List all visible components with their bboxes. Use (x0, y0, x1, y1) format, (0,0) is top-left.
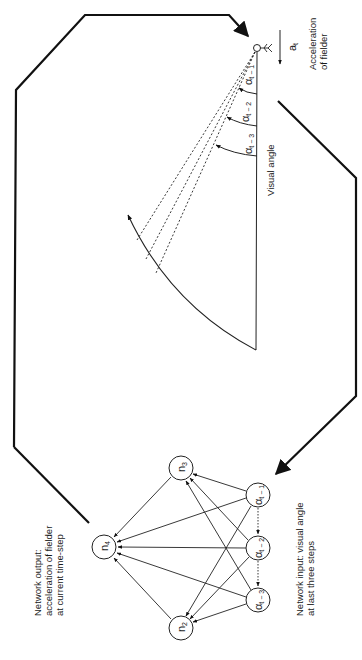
network-output-label-line3: at current time-step (54, 534, 65, 616)
node-alpha-t3: αt − 3 (246, 588, 270, 612)
fielder-icon (254, 44, 273, 52)
network-input-label-line1: Network input: visual angle (294, 502, 305, 616)
network-input-label-line2: at last three steps (305, 541, 316, 616)
node-n4: n4 (92, 535, 116, 559)
svg-text:αt − 2: αt − 2 (239, 102, 252, 122)
visual-angle-label: Visual angle (265, 144, 276, 196)
svg-text:αt − 1: αt − 1 (242, 65, 255, 85)
node-alpha-t2: αt − 2 (246, 536, 270, 560)
node-n2: n2 (169, 616, 193, 640)
fielder-panel: αt − 1 αt − 2 αt − 3 Visual angle at Acc… (128, 18, 329, 350)
node-n3: n3 (169, 456, 193, 480)
diagram-canvas: αt − 1 αt − 2 αt − 3 Visual angle at Acc… (0, 0, 362, 660)
feedback-loop-top (14, 15, 248, 523)
svg-text:αt − 3: αt − 3 (242, 134, 255, 154)
acceleration-label-line1: Acceleration (307, 18, 318, 70)
feedback-loop-right (276, 101, 356, 474)
network-output-label-line2: acceleration of fielder (43, 526, 54, 616)
svg-text:at: at (286, 43, 299, 51)
network-output-label-line1: Network output: (32, 549, 43, 616)
acceleration-label-line2: of fielder (318, 34, 329, 70)
network-panel: n4 n3 n2 αt − 1 αt − 2 αt − 3 Network ou… (32, 456, 316, 640)
node-alpha-t1: αt − 1 (246, 483, 270, 507)
